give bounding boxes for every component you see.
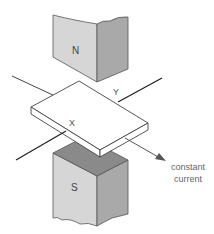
north-pole-label: N	[72, 46, 79, 56]
current-label-line2: current	[164, 174, 212, 184]
conductor-slab	[31, 81, 148, 157]
current-arrow-line	[125, 138, 160, 158]
wire-right-y	[118, 78, 162, 102]
hall-effect-diagram	[0, 0, 214, 234]
wire-left-back	[12, 76, 55, 96]
point-x-label: X	[69, 118, 75, 128]
south-pole-label: S	[71, 183, 78, 193]
point-y-label: Y	[113, 87, 119, 97]
arrow-head-icon	[155, 153, 166, 161]
current-label-line1: constant	[164, 162, 212, 172]
north-magnet	[53, 15, 128, 82]
